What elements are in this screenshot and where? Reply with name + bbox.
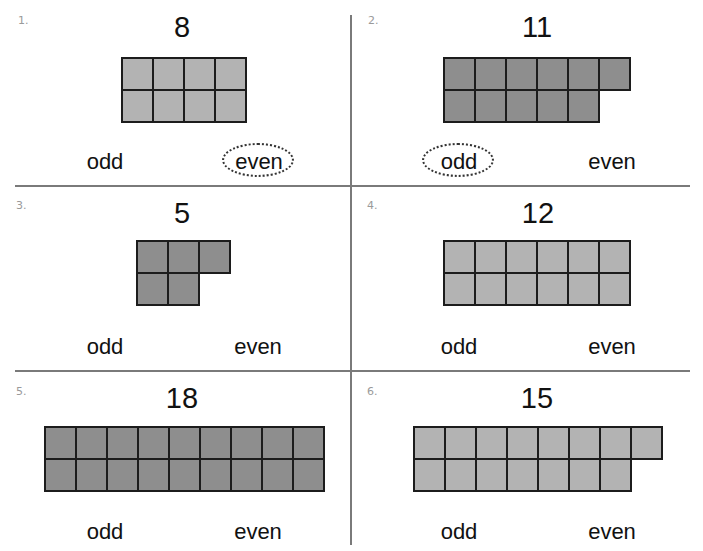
target-number: 18 xyxy=(122,384,242,413)
cube-cell xyxy=(167,240,200,274)
choice-even[interactable]: even xyxy=(218,521,298,543)
cube-cell xyxy=(443,57,476,91)
cube-cell xyxy=(136,240,169,274)
cube-cell xyxy=(474,89,507,123)
cube-cell xyxy=(536,89,569,123)
cube-cell xyxy=(474,57,507,91)
choice-even[interactable]: even xyxy=(572,151,652,173)
cube-cell xyxy=(505,89,538,123)
cube-cell xyxy=(199,458,232,492)
cube-cell xyxy=(214,57,247,91)
cube-cell xyxy=(106,426,139,460)
cube-cell xyxy=(75,458,108,492)
cube-cell xyxy=(137,426,170,460)
cube-cell xyxy=(630,426,663,460)
cube-cell xyxy=(598,57,631,91)
cube-cell xyxy=(599,426,632,460)
cube-cell xyxy=(537,426,570,460)
cube-cell xyxy=(444,458,477,492)
choice-odd[interactable]: odd xyxy=(65,336,145,358)
choice-even[interactable]: even xyxy=(572,336,652,358)
cube-cell xyxy=(137,458,170,492)
cube-cell xyxy=(183,57,216,91)
cube-cell xyxy=(168,426,201,460)
cube-cell xyxy=(474,272,507,306)
cube-cell xyxy=(475,426,508,460)
cube-cell xyxy=(567,57,600,91)
cube-cell xyxy=(443,240,476,274)
choice-odd-circled[interactable]: odd xyxy=(419,151,499,173)
cube-cell xyxy=(199,426,232,460)
cube-cell xyxy=(292,458,325,492)
cube-cell xyxy=(198,240,231,274)
cube-cell xyxy=(183,89,216,123)
cube-cell xyxy=(230,458,263,492)
cube-cell xyxy=(567,272,600,306)
cube-cell xyxy=(443,272,476,306)
cube-cell xyxy=(261,458,294,492)
cube-cell xyxy=(567,89,600,123)
cube-cell xyxy=(568,458,601,492)
problem-number: 1. xyxy=(18,14,29,27)
problem-number: 6. xyxy=(367,385,378,398)
target-number: 5 xyxy=(122,199,242,228)
cube-cell xyxy=(567,240,600,274)
cube-cell xyxy=(44,458,77,492)
cube-cell xyxy=(598,272,631,306)
cube-cell xyxy=(537,458,570,492)
horizontal-divider xyxy=(15,370,690,372)
cube-cell xyxy=(152,57,185,91)
vertical-divider xyxy=(350,15,352,545)
cube-cell xyxy=(536,240,569,274)
cube-cell xyxy=(261,426,294,460)
choice-even[interactable]: even xyxy=(218,336,298,358)
cube-cell xyxy=(413,458,446,492)
problem-number: 5. xyxy=(16,385,27,398)
cube-cell xyxy=(292,426,325,460)
target-number: 15 xyxy=(477,384,597,413)
cube-cell xyxy=(599,458,632,492)
cube-cell xyxy=(474,240,507,274)
cube-cell xyxy=(214,89,247,123)
horizontal-divider xyxy=(15,185,690,187)
choice-even[interactable]: even xyxy=(572,521,652,543)
choice-odd[interactable]: odd xyxy=(65,151,145,173)
choice-odd[interactable]: odd xyxy=(419,521,499,543)
cube-cell xyxy=(167,272,200,306)
cube-cell xyxy=(475,458,508,492)
cube-cell xyxy=(506,426,539,460)
cube-cell xyxy=(505,272,538,306)
cube-cell xyxy=(505,57,538,91)
target-number: 11 xyxy=(477,13,597,42)
choice-even-circled[interactable]: even xyxy=(219,151,299,173)
cube-cell xyxy=(536,272,569,306)
choice-odd[interactable]: odd xyxy=(419,336,499,358)
cube-cell xyxy=(443,89,476,123)
cube-cell xyxy=(230,426,263,460)
cube-cell xyxy=(44,426,77,460)
cube-cell xyxy=(121,89,154,123)
cube-cell xyxy=(506,458,539,492)
cube-cell xyxy=(536,57,569,91)
target-number: 8 xyxy=(122,13,242,42)
target-number: 12 xyxy=(478,199,598,228)
cube-cell xyxy=(598,240,631,274)
cube-cell xyxy=(106,458,139,492)
problem-number: 2. xyxy=(368,14,379,27)
choice-odd[interactable]: odd xyxy=(65,521,145,543)
cube-cell xyxy=(568,426,601,460)
cube-cell xyxy=(505,240,538,274)
cube-cell xyxy=(121,57,154,91)
cube-cell xyxy=(444,426,477,460)
cube-cell xyxy=(136,272,169,306)
problem-number: 3. xyxy=(16,199,27,212)
cube-cell xyxy=(413,426,446,460)
cube-cell xyxy=(75,426,108,460)
cube-cell xyxy=(152,89,185,123)
problem-number: 4. xyxy=(367,199,378,212)
cube-cell xyxy=(168,458,201,492)
